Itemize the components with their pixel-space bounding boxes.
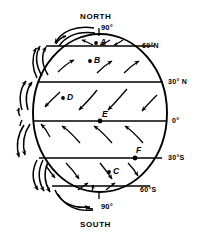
globe-circulation-diagram: NORTH 90° SOUTH 90° 60°N 30° N 0° 30°S 6… [0,0,200,238]
point-marker-B [88,59,92,63]
point-marker-C [107,170,111,174]
latitude-label-30s: 30°S [168,154,184,161]
point-label-B: B [94,56,100,65]
point-marker-E [98,119,103,124]
point-marker-F [133,156,138,161]
north-label: NORTH [80,13,111,21]
pole-south-degree-label: 90° [101,203,113,211]
point-marker-D [61,96,65,100]
diagram-canvas [0,0,200,238]
latitude-label-30n: 30° N [168,78,187,85]
wind-arrows-trades-north [45,89,157,111]
point-label-A: A [100,38,106,47]
latitude-label-60s: 60°S [140,186,156,193]
circulation-cell-hadley-south [18,120,30,157]
circulation-cell-ferrel-south [33,160,50,192]
circulation-cell-ferrel-north [33,46,48,78]
pole-north-degree-label: 90° [101,24,113,32]
circulation-cell-hadley-north [18,81,32,116]
south-label: SOUTH [80,221,111,229]
point-marker-A [94,41,98,45]
point-label-D: D [67,93,73,102]
circulation-cell-polar-south [55,190,93,210]
latitude-label-equator: 0° [172,117,179,124]
point-label-C: C [113,167,119,176]
latitude-label-60n: 60°N [142,42,159,49]
point-label-F: F [136,146,141,155]
wind-arrows-trades-south [41,124,143,143]
point-label-E: E [102,110,108,119]
